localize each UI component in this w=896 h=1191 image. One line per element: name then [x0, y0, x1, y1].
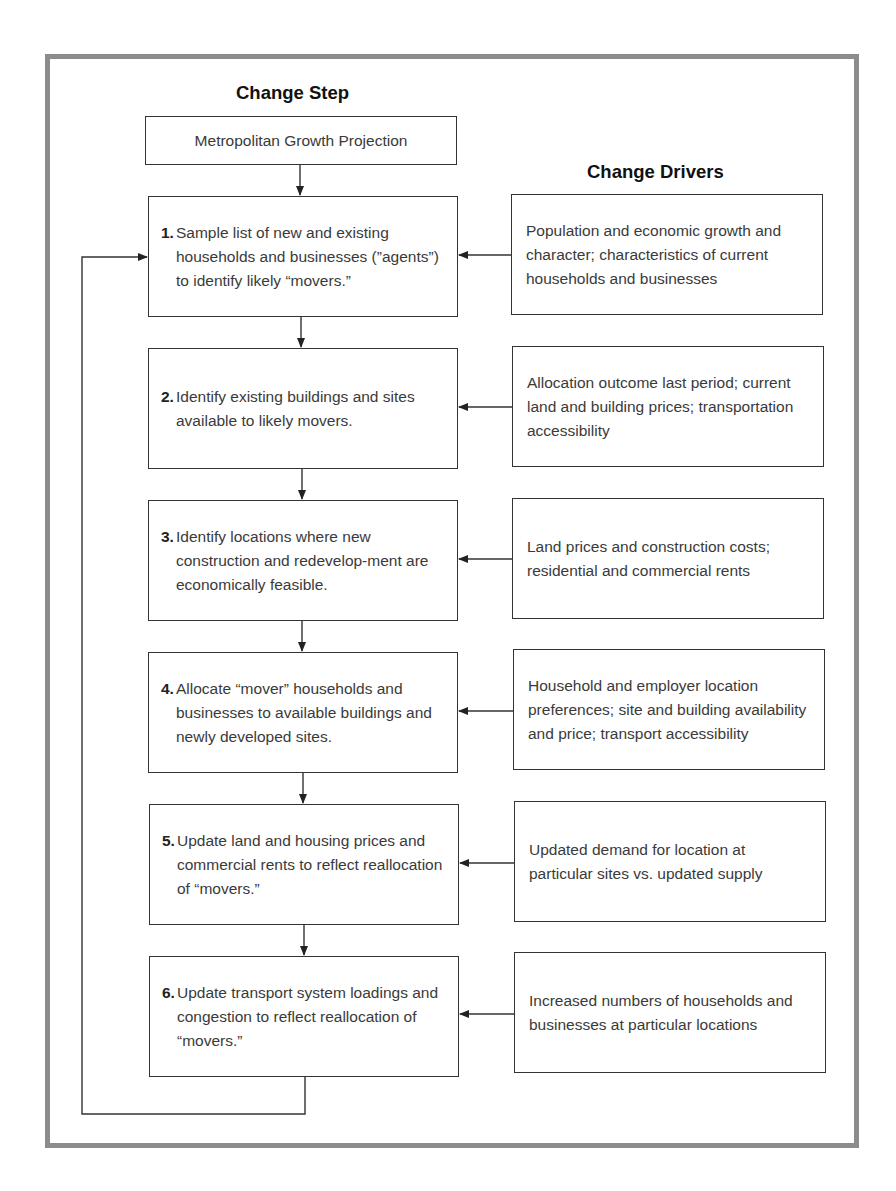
- feedback-loop-arrow: [82, 257, 305, 1114]
- connector-arrows: [0, 0, 896, 1191]
